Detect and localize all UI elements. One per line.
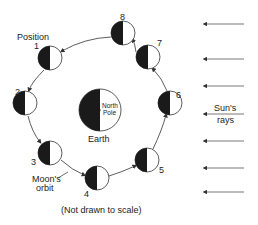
suns-rays-label-line2: rays	[217, 115, 235, 125]
position-number-3: 3	[31, 157, 36, 167]
north-pole-label-line1: North	[102, 102, 118, 109]
north-pole-label-line2: Pole	[103, 109, 116, 116]
position-number-1: 1	[34, 41, 39, 51]
moon-position-3	[38, 141, 62, 165]
position-number-5: 5	[159, 165, 164, 175]
position-number-6: 6	[176, 90, 181, 100]
suns-rays-label-line1: Sun's	[214, 103, 237, 113]
position-number-8: 8	[120, 12, 125, 22]
moon-phases-diagram: Position 1 2 3 4 5 6 7 8 North Pole Eart…	[0, 0, 258, 225]
moons-orbit-label-line2: orbit	[36, 183, 54, 193]
scale-note: (Not drawn to scale)	[61, 205, 142, 215]
position-number-4: 4	[84, 189, 89, 199]
moon-position-1	[38, 46, 62, 70]
north-pole-dot	[97, 108, 100, 111]
moon-position-8	[111, 21, 135, 45]
position-number-7: 7	[157, 38, 162, 48]
earth-label: Earth	[88, 134, 110, 144]
moon-position-7	[136, 45, 160, 69]
moon-position-4	[85, 166, 109, 190]
moon-position-5	[135, 148, 159, 172]
position-number-2: 2	[15, 87, 20, 97]
